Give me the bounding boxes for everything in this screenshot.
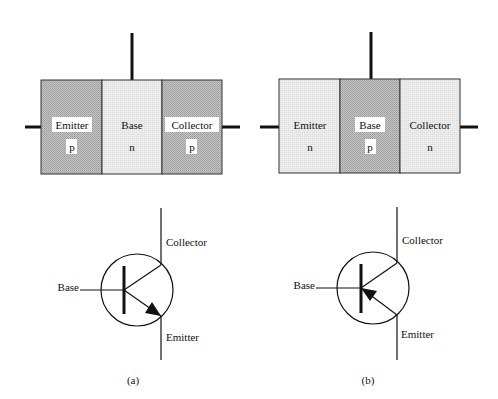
region-name: Emitter <box>56 119 89 131</box>
pnp-symbol <box>80 208 173 360</box>
pnp-block: Emitter p Base n Collector p <box>25 33 240 174</box>
collector-branch <box>361 263 397 288</box>
bjt-diagram: Emitter p Base n Collector p Emitter n B… <box>0 0 498 399</box>
region-name: Collector <box>172 119 213 131</box>
region-name: Base <box>359 119 381 131</box>
doping-label: p <box>69 141 75 153</box>
base-label: Base <box>294 279 316 291</box>
collector-label: Collector <box>166 236 207 248</box>
npn-block: Emitter n Base p Collector n <box>260 32 478 173</box>
emitter-label: Emitter <box>166 331 199 343</box>
doping-label: n <box>307 141 313 153</box>
doping-label: n <box>427 141 433 153</box>
npn-symbol <box>316 207 409 360</box>
caption-a: (a) <box>127 374 140 387</box>
region-name: Collector <box>410 119 451 131</box>
collector-branch <box>124 265 161 290</box>
collector-label: Collector <box>402 234 443 246</box>
emitter-arrow-icon <box>361 288 377 301</box>
base-label: Base <box>58 281 80 293</box>
doping-label: n <box>129 141 135 153</box>
doping-label: p <box>367 141 373 153</box>
emitter-arrow-icon <box>145 302 161 316</box>
doping-label: p <box>189 141 195 153</box>
caption-b: (b) <box>362 374 375 387</box>
region-name: Base <box>121 119 143 131</box>
region-name: Emitter <box>294 119 327 131</box>
emitter-label: Emitter <box>401 328 434 340</box>
